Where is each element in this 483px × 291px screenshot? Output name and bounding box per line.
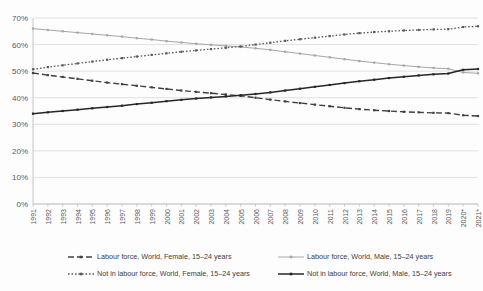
series-data-point — [76, 32, 78, 34]
legend-item: Not in labour force, World, Female, 15–2… — [68, 269, 250, 278]
series-data-point — [151, 86, 153, 88]
series-data-point — [358, 32, 360, 34]
series-data-point — [418, 111, 420, 113]
series-data-point — [343, 33, 345, 35]
series-data-point — [151, 38, 153, 40]
series-data-point — [388, 63, 390, 65]
series-data-point — [151, 102, 153, 104]
series-data-point — [32, 113, 34, 115]
legend-item: Labour force, World, Female, 15–24 years — [68, 252, 232, 261]
series-data-point — [299, 53, 301, 55]
legend-label: Not in labour force, World, Female, 15–2… — [97, 269, 250, 278]
series-data-point — [447, 72, 449, 74]
series-data-point — [121, 36, 123, 38]
x-axis-tick-label: 2012 — [342, 209, 349, 225]
series-data-point — [432, 112, 434, 114]
x-axis-tick-label: 1991 — [30, 209, 37, 225]
series-data-point — [343, 82, 345, 84]
series-data-point — [284, 51, 286, 53]
x-axis-tick-label: 2001 — [178, 209, 185, 225]
series-data-point — [47, 111, 49, 113]
legend-label: Labour force, World, Male, 15–24 years — [307, 252, 434, 261]
series-data-point — [462, 26, 464, 28]
y-axis-tick-label: 70% — [12, 14, 28, 23]
series-data-point — [269, 42, 271, 44]
series-data-point — [225, 95, 227, 97]
series-data-point — [106, 81, 108, 83]
series-data-point — [447, 68, 449, 70]
x-axis-tick-label: 2004 — [223, 209, 230, 225]
series-data-point — [403, 29, 405, 31]
x-axis-tick-label: 2017 — [416, 209, 423, 225]
series-data-point — [62, 30, 64, 32]
series-data-point — [32, 28, 34, 30]
x-axis-tick-label: 1998 — [134, 209, 141, 225]
x-axis-tick-label: 2019 — [445, 209, 452, 225]
series-data-point — [432, 67, 434, 69]
series-data-point — [269, 91, 271, 93]
series-data-point — [210, 92, 212, 94]
x-axis-tick-label: 2018 — [431, 209, 438, 225]
series-data-point — [314, 37, 316, 39]
x-axis-tick-label: 1992 — [45, 209, 52, 225]
series-data-point — [240, 94, 242, 96]
series-data-point — [136, 103, 138, 105]
series-data-point — [76, 62, 78, 64]
series-data-point — [314, 86, 316, 88]
series-data-point — [329, 35, 331, 37]
series-data-point — [240, 45, 242, 47]
series-data-point — [91, 107, 93, 109]
series-data-point — [62, 76, 64, 78]
series-data-point — [47, 66, 49, 68]
series-data-point — [358, 80, 360, 82]
series-data-point — [329, 56, 331, 58]
series-data-point — [373, 79, 375, 81]
series-data-point — [195, 91, 197, 93]
series-data-point — [47, 29, 49, 31]
series-data-point — [180, 41, 182, 43]
series-data-point — [329, 105, 331, 107]
series-data-point — [269, 49, 271, 51]
y-axis-tick-label: 10% — [12, 173, 28, 182]
series-data-point — [462, 69, 464, 71]
series-data-point — [121, 57, 123, 59]
series-data-point — [373, 109, 375, 111]
series-data-point — [447, 28, 449, 30]
x-axis-tick-label: 1997 — [119, 209, 126, 225]
x-axis-tick-label: 1993 — [60, 209, 67, 225]
x-axis-tick-label: 2016 — [401, 209, 408, 225]
series-data-point — [388, 77, 390, 79]
x-axis-tick-label: 2002 — [193, 209, 200, 225]
x-axis-tick-label: 1999 — [149, 209, 156, 225]
x-axis-tick-label: 2009 — [297, 209, 304, 225]
series-data-point — [358, 60, 360, 62]
y-axis-tick-label: 30% — [12, 120, 28, 129]
series-data-point — [180, 51, 182, 53]
series-data-point — [329, 84, 331, 86]
legend-item: Not in labour force, World, Male, 15–24 … — [278, 269, 452, 278]
series-data-point — [432, 73, 434, 75]
series-data-point — [477, 115, 479, 117]
legend-marker — [290, 256, 293, 259]
series-data-point — [299, 102, 301, 104]
series-data-point — [210, 96, 212, 98]
series-data-point — [32, 68, 34, 70]
legend-item: Labour force, World, Male, 15–24 years — [278, 252, 434, 261]
series-data-point — [210, 48, 212, 50]
series-data-point — [195, 49, 197, 51]
series-data-point — [343, 58, 345, 60]
x-axis-tick-label: 2000 — [164, 209, 171, 225]
series-data-point — [299, 88, 301, 90]
series-data-point — [418, 74, 420, 76]
series-data-point — [447, 112, 449, 114]
series-data-point — [76, 109, 78, 111]
series-data-point — [254, 97, 256, 99]
x-axis-tick-label: 2014 — [371, 209, 378, 225]
x-axis-tick-label: 1996 — [104, 209, 111, 225]
y-axis-tick-label: 40% — [12, 94, 28, 103]
series-data-point — [284, 89, 286, 91]
series-data-point — [165, 52, 167, 54]
series-data-point — [225, 47, 227, 49]
series-data-point — [165, 100, 167, 102]
x-axis-tick-label: 2003 — [208, 209, 215, 225]
